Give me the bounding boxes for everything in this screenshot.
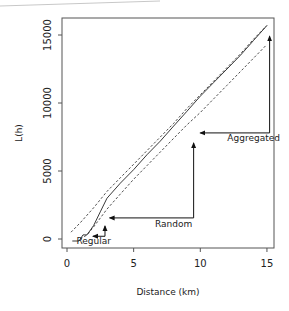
y-tick-label: 0 — [42, 236, 53, 242]
x-tick-label: 0 — [64, 258, 70, 269]
y-tick-label: 5000 — [42, 158, 53, 183]
x-tick-label: 5 — [130, 258, 136, 269]
x-axis-title: Distance (km) — [136, 287, 199, 297]
y-tick-label: 10000 — [42, 87, 53, 119]
x-tick-label: 10 — [194, 258, 207, 269]
x-tick-label: 15 — [261, 258, 274, 269]
y-axis-title: L(h) — [14, 124, 24, 142]
series-line — [71, 26, 267, 233]
x-axis: 051015 — [64, 248, 274, 269]
y-tick-label: 15000 — [42, 19, 53, 51]
annotation-label-aggregated: Aggregated — [227, 133, 280, 143]
annotation-label-random: Random — [155, 219, 192, 229]
annotation-layer: AggregatedRandomRegular — [76, 36, 280, 245]
y-axis: 050001000015000 — [42, 19, 62, 242]
annotation-label-regular: Regular — [76, 236, 111, 246]
scan-artifact-line — [0, 1, 160, 6]
l-function-chart: 050001000015000 051015 AggregatedRandomR… — [0, 0, 289, 311]
